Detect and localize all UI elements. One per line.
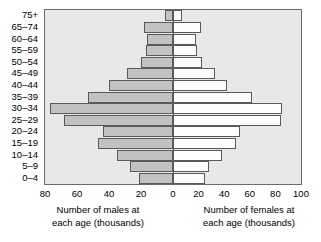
age-group-row [45,80,301,91]
age-group-row [45,45,301,56]
bar-male [88,92,173,103]
bar-male [127,68,173,79]
x-axis-tick-label: 40 [219,187,230,200]
y-axis-age-label: 30–34 [12,102,38,113]
bar-female [173,10,182,21]
y-axis-age-label: 65–74 [12,21,38,32]
x-axis-tick-label: 0 [170,187,175,200]
bar-female [173,103,282,114]
bar-male [64,115,173,126]
age-group-row [45,57,301,68]
x-axis-tick-label: 80 [270,187,281,200]
y-axis-age-label: 55–59 [12,44,38,55]
bars-container [45,10,301,184]
bar-female [173,138,236,149]
population-pyramid-chart: 0–45–910–1415–1920–2425–2930–3435–3940–4… [0,0,321,242]
bar-male [50,103,173,114]
age-group-row [45,10,301,21]
bar-male [130,161,173,172]
y-axis-age-label: 25–29 [12,114,38,125]
y-axis-age-label: 20–24 [12,125,38,136]
age-group-row [45,150,301,161]
y-axis-age-label: 75+ [22,9,38,20]
y-axis-age-label: 15–19 [12,137,38,148]
bar-female [173,126,240,137]
age-group-row [45,115,301,126]
x-axis-tick-label: 20 [136,187,147,200]
x-axis-tick-labels: 80604020020406080100 [0,187,321,201]
x-axis-tick-label: 40 [104,187,115,200]
bar-female [173,173,205,184]
axis-captions: Number of males at each age (thousands) … [0,203,321,237]
bar-male [117,150,173,161]
bar-male [144,22,173,33]
bar-female [173,34,196,45]
age-group-row [45,103,301,114]
age-group-row [45,173,301,184]
bar-male [139,173,173,184]
bar-female [173,22,201,33]
age-group-row [45,68,301,79]
bar-male [109,80,173,91]
bar-male [146,45,173,56]
x-axis-tick-label: 80 [40,187,51,200]
bar-female [173,115,281,126]
bar-male [98,138,173,149]
bar-male [141,57,173,68]
y-axis-age-label: 50–54 [12,56,38,67]
x-axis-label-females-line1: Number of females at [175,203,321,216]
bar-female [173,80,227,91]
y-axis-age-label: 0–4 [22,172,38,183]
age-group-row [45,161,301,172]
x-axis-label-males-line1: Number of males at [24,203,172,216]
x-axis-label-males-line2: each age (thousands) [24,216,172,229]
age-group-row [45,126,301,137]
bar-female [173,150,222,161]
y-axis-age-label: 5–9 [22,160,38,171]
bar-female [173,161,209,172]
bar-female [173,92,252,103]
y-axis-age-label: 60–64 [12,33,38,44]
plot-area [44,9,302,185]
y-axis-age-labels: 0–45–910–1415–1920–2425–2930–3435–3940–4… [0,9,41,185]
y-axis-age-label: 40–44 [12,79,38,90]
bar-female [173,68,215,79]
x-axis-label-males: Number of males at each age (thousands) [24,203,172,229]
age-group-row [45,92,301,103]
x-axis-tick-label: 20 [193,187,204,200]
x-axis-tick-label: 60 [72,187,83,200]
x-axis-label-females: Number of females at each age (thousands… [175,203,321,229]
bar-male [165,10,173,21]
bar-male [147,34,173,45]
bar-male [103,126,173,137]
x-axis-tick-label: 100 [293,187,309,200]
age-group-row [45,138,301,149]
age-group-row [45,34,301,45]
age-group-row [45,22,301,33]
y-axis-age-label: 35–39 [12,91,38,102]
y-axis-age-label: 45–49 [12,67,38,78]
x-axis-tick-label: 60 [245,187,256,200]
bar-female [173,57,202,68]
y-axis-age-label: 10–14 [12,149,38,160]
bar-female [173,45,197,56]
x-axis-label-females-line2: each age (thousands) [175,216,321,229]
